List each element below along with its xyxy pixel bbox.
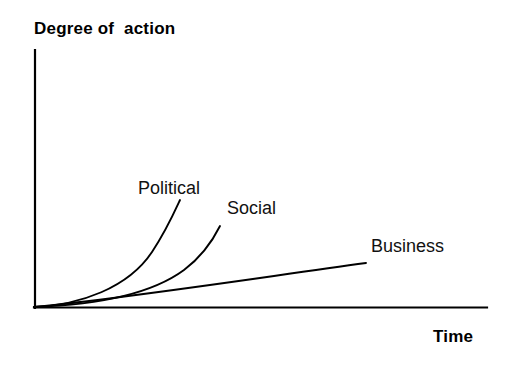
series-label-business: Business: [371, 236, 444, 256]
y-axis-title: Degree of action: [34, 19, 175, 39]
chart-canvas: [0, 0, 511, 365]
curve-social: [34, 226, 220, 307]
axes-group: [34, 50, 487, 308]
curve-political: [34, 200, 180, 307]
series-group: [34, 200, 366, 307]
curve-business: [34, 263, 366, 307]
x-axis-title: Time: [433, 327, 473, 347]
degree-of-action-chart: Degree of action Time Political Social B…: [0, 0, 511, 365]
series-label-political: Political: [138, 178, 200, 198]
series-label-social: Social: [227, 198, 276, 218]
